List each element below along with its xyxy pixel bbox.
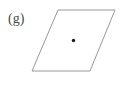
parallelogram-diagram xyxy=(0,0,125,93)
figure-panel: (g) xyxy=(0,0,125,93)
center-dot-icon xyxy=(72,39,75,42)
